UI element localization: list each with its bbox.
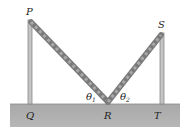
rope-pr-twist: [31, 22, 108, 102]
diagram: P S Q R T θ1 θ2: [0, 0, 188, 134]
label-theta1: θ1: [86, 91, 96, 103]
rope-rs-twist: [108, 35, 161, 102]
label-p: P: [25, 6, 33, 17]
pole-st: [160, 33, 164, 104]
label-theta2: θ2: [120, 91, 130, 103]
label-s: S: [158, 19, 165, 30]
label-r: R: [103, 110, 112, 121]
label-q: Q: [26, 110, 34, 121]
pole-pq: [28, 20, 32, 104]
